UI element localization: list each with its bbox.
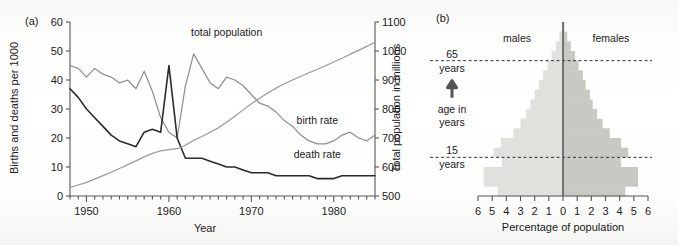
pyramid-reference-label-value-15: 15 [446,144,458,156]
pyramid-bar-female [563,90,590,100]
pyramid-females-label: females [593,32,630,44]
panel-b-x-tick-label: 3 [517,205,523,217]
panel-a-y2-tick-label: 1100 [382,16,406,28]
panel-b-population-pyramid: (b) 65years15years 6543210123456 males f… [410,0,678,245]
panel-a-y-tick-label: 30 [51,103,63,115]
panel-b-x-tick-label: 2 [588,205,594,217]
pyramid-bar-male [552,51,563,61]
pyramid-bar-female [563,186,625,196]
series-line-birth-rate [70,54,375,144]
panel-a-left-axis: 0102030405060 [51,16,70,202]
pyramid-bar-male [484,177,563,187]
panel-a-x-tick-label: 1950 [74,205,98,217]
age-direction-arrow-icon [448,81,457,98]
pyramid-bar-male [501,138,563,148]
pyramid-bars-group [484,22,638,196]
panel-b-x-tick-label: 2 [532,205,538,217]
panel-b-x-tick-label: 5 [489,205,495,217]
panel-b-x-tick-label: 0 [560,205,566,217]
pyramid-bar-female [563,128,610,138]
panel-b-x-tick-label: 1 [546,205,552,217]
panel-b-x-tick-label: 5 [631,205,637,217]
pyramid-bar-female [563,148,628,158]
pyramid-bar-female [563,80,586,90]
series-label-total-population: total population [191,26,262,38]
pyramid-reference-label-value-65: 65 [446,48,458,60]
panel-a-x-axis: 1950196019701980 [70,196,375,217]
panel-b-svg: (b) 65years15years 6543210123456 males f… [410,0,678,245]
panel-a-y2-tick-label: 500 [382,190,400,202]
pyramid-bar-female [563,51,575,61]
pyramid-bar-male [513,128,563,138]
panel-a-y-tick-label: 10 [51,161,63,173]
pyramid-males-label: males [503,32,531,44]
panel-a-y2-axis-title: Total population in millions [390,43,402,172]
series-label-death-rate: death rate [294,148,341,160]
pyramid-bar-female [563,119,603,129]
panel-b-x-tick-label: 6 [475,205,481,217]
panel-a-y-tick-label: 40 [51,74,63,86]
panel-a-x-tick-label: 1980 [322,205,346,217]
pyramid-reference-label-units-65: years [439,62,465,74]
panel-a-y-tick-label: 0 [57,190,63,202]
pyramid-bar-male [535,90,563,100]
series-label-birth-rate: birth rate [297,114,339,126]
panel-a-line-chart: (a) 0102030405060 5006007008009001000110… [0,0,410,245]
pyramid-age-axis-annotation: age inyears [438,81,467,128]
pyramid-bar-male [543,70,563,80]
pyramid-age-axis-label-line1: age in [438,103,467,115]
panel-a-x-axis-title: Year [194,222,217,234]
pyramid-age-axis-label-line2: years [439,116,465,128]
pyramid-bar-male [484,167,563,177]
pyramid-bar-male [494,148,563,158]
pyramid-bar-male [547,61,563,71]
panel-b-x-tick-label: 6 [645,205,651,217]
pyramid-bar-male [521,119,564,129]
pyramid-bar-female [563,157,621,167]
panel-b-label: (b) [436,12,449,24]
pyramid-bar-male [502,157,563,167]
panel-a-y-tick-label: 50 [51,45,63,57]
pyramid-bar-female [563,138,621,148]
pyramid-reference-label-units-15: years [439,158,465,170]
panel-b-x-tick-label: 4 [617,205,623,217]
pyramid-bar-male [498,186,563,196]
pyramid-bar-female [563,177,638,187]
panel-a-label: (a) [25,15,38,27]
panel-a-y-axis-title: Births and deaths per 1000 [8,42,20,174]
panel-a-y-tick-label: 20 [51,132,63,144]
pyramid-bar-male [539,80,563,90]
panel-a-svg: (a) 0102030405060 5006007008009001000110… [0,0,410,245]
pyramid-bar-female [563,109,597,119]
pyramid-bar-female [563,99,593,109]
panel-b-x-axis: 6543210123456 [475,196,651,217]
panel-a-x-tick-label: 1960 [157,205,181,217]
pyramid-bar-female [563,167,638,177]
pyramid-bar-male [526,109,563,119]
panel-a-y-tick-label: 60 [51,16,63,28]
figure-root: (a) 0102030405060 5006007008009001000110… [0,0,678,245]
panel-a-annotations: total populationbirth ratedeath rate [191,26,341,160]
pyramid-bar-female [563,61,579,71]
panel-b-x-tick-label: 4 [503,205,509,217]
panel-b-x-tick-label: 3 [602,205,608,217]
pyramid-bar-male [530,99,563,109]
pyramid-bar-female [563,70,583,80]
panel-a-x-tick-label: 1970 [239,205,263,217]
pyramid-bar-male [556,41,563,51]
panel-b-x-axis-title: Percentage of population [502,221,624,233]
pyramid-bar-female [563,41,571,51]
panel-b-x-tick-label: 1 [574,205,580,217]
